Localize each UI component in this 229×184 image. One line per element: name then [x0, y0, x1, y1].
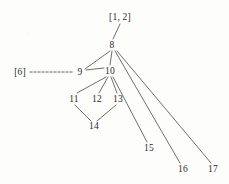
edge-10-to-11 [77, 77, 106, 93]
edge-layer [0, 0, 229, 184]
edge-12-to-8 [113, 24, 120, 39]
root-label: [1, 2] [109, 12, 131, 22]
node-11: 11 [69, 94, 79, 104]
node-14: 14 [89, 121, 99, 131]
six-label: [6] [14, 67, 26, 77]
node-17: 17 [208, 164, 218, 174]
edge-8-to-17 [117, 51, 211, 163]
edge-13-to-14 [97, 105, 116, 121]
graph-diagram: [1, 2][6]891011121314151617 [0, 0, 229, 184]
edge-10-to-15 [113, 77, 147, 142]
node-9: 9 [78, 67, 83, 77]
node-15: 15 [144, 143, 154, 153]
edge-8-to-10 [110, 51, 112, 65]
node-10: 10 [105, 66, 115, 76]
node-12: 12 [92, 94, 102, 104]
node-16: 16 [178, 164, 188, 174]
node-13: 13 [113, 94, 123, 104]
edge-9-to-10 [86, 68, 104, 70]
node-8: 8 [110, 40, 115, 50]
edge-10-to-12 [99, 77, 108, 93]
edge-11-to-14 [75, 105, 91, 121]
